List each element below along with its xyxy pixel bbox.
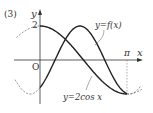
f-curve-label: y=f(x)	[95, 21, 122, 30]
x-axis-label: x	[137, 48, 143, 58]
cos-curve-label: y=2cos x	[63, 93, 102, 102]
f-curve-extension-left	[15, 80, 40, 94]
f-curve-extension-right	[127, 86, 141, 94]
cos-label-leader	[86, 76, 92, 90]
origin-label: O	[32, 63, 39, 72]
y-axis-arrow-icon	[38, 9, 42, 15]
x-axis-arrow-icon	[137, 58, 143, 62]
cos-curve-extension-right	[127, 89, 142, 94]
problem-number: (3)	[4, 10, 17, 19]
y-axis-label: y	[31, 9, 37, 19]
y-tick-2: 2	[32, 21, 38, 30]
x-tick-pi: π	[124, 49, 130, 58]
